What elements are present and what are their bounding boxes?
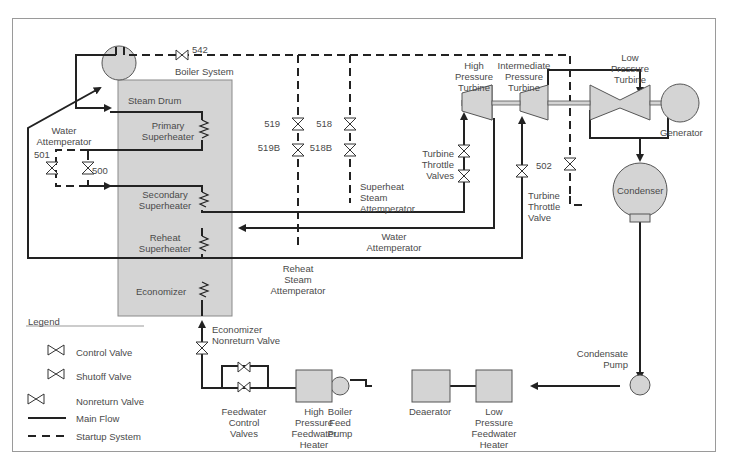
hp-feedwater-heater-label: HighPressureFeedwaterHeater: [284, 406, 344, 450]
reheat-steam-attemperator-label: ReheatSteamAttemperator: [268, 263, 328, 296]
condenser-label: Condenser: [617, 185, 663, 196]
boiler-system-title: Boiler System: [175, 66, 234, 77]
secondary-superheater-label: SecondarySuperheater: [130, 189, 200, 211]
valve-tag-502: 502: [536, 160, 552, 171]
steam-drum-label: Steam Drum: [128, 95, 181, 106]
legend-nonreturn-valve: Nonreturn Valve: [76, 396, 144, 407]
legend-shutoff-valve: Shutoff Valve: [76, 371, 132, 382]
lp-feedwater-heater-label: LowPressureFeedwaterHeater: [464, 406, 524, 450]
feedwater-control-valves-label: FeedwaterControlValves: [214, 406, 274, 439]
economizer-label: Economizer: [136, 286, 186, 297]
hp-feedwater-heater: [296, 370, 332, 402]
valve-tag-518: 518: [300, 118, 332, 129]
superheat-steam-attemperator-label: SuperheatSteamAttemperator: [360, 181, 415, 214]
valve-tag-519: 519: [250, 118, 280, 129]
generator: [661, 84, 699, 122]
lp-turbine-label: LowPressureTurbine: [600, 52, 660, 85]
valve-tag-519b: 519B: [250, 142, 280, 153]
primary-superheater-label: PrimarySuperheater: [138, 120, 198, 142]
reheat-superheater-label: ReheatSuperheater: [130, 232, 200, 254]
lp-feedwater-heater: [476, 370, 512, 402]
deaerator: [412, 370, 450, 402]
turbine-throttle-valves-label: TurbineThrottleValves: [398, 148, 454, 181]
steam-drum: [102, 46, 136, 80]
deaerator-label: Deaerator: [400, 406, 460, 417]
legend-main-flow: Main Flow: [76, 413, 119, 424]
generator-label: Generator: [660, 127, 703, 138]
water-attemperator-left-label: WaterAttemperator: [34, 125, 94, 147]
water-attemperator-center-label: WaterAttemperator: [364, 231, 424, 253]
valve-tag-500: 500: [92, 165, 108, 176]
legend-title: Legend: [28, 316, 60, 327]
economizer-nonreturn-valve-label: EconomizerNonreturn Valve: [212, 324, 280, 346]
condensate-pump-label: CondensatePump: [560, 348, 628, 370]
turbine-throttle-valve-label: TurbineThrottleValve: [528, 190, 560, 223]
legend-startup-system: Startup System: [76, 431, 141, 442]
condensate-pump: [630, 375, 650, 395]
lp-turbine: [590, 85, 650, 120]
legend-control-valve: Control Valve: [76, 347, 132, 358]
ip-turbine-label: IntermediatePressureTurbine: [484, 60, 564, 93]
boiler-feed-pump: [331, 377, 349, 395]
valve-tag-501: 501: [34, 149, 50, 160]
valve-tag-518b: 518B: [300, 142, 332, 153]
valve-tag-542: 542: [192, 44, 208, 55]
